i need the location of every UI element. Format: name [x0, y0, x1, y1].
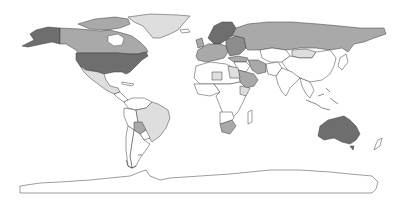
region-new-zealand — [374, 138, 382, 150]
region-iran — [248, 60, 266, 74]
region-canada — [60, 28, 148, 54]
region-libya-tint — [212, 72, 222, 80]
region-antarctica — [20, 170, 378, 193]
region-australia — [318, 116, 360, 144]
region-mongolia — [292, 49, 316, 58]
region-japan — [338, 54, 348, 70]
region-cuba — [122, 82, 134, 86]
region-tasmania — [350, 146, 354, 150]
region-russia — [232, 22, 386, 52]
region-uk — [196, 38, 204, 48]
region-alaska — [22, 27, 60, 47]
region-madagascar — [248, 110, 252, 124]
region-horn-of-africa — [240, 86, 250, 96]
region-turkey — [228, 56, 248, 62]
region-eastern-europe — [226, 36, 246, 56]
world-map — [0, 0, 405, 207]
region-iceland — [180, 29, 190, 33]
world-map-svg — [0, 0, 405, 207]
region-central-america — [114, 92, 128, 102]
region-greenland — [128, 14, 190, 38]
region-arctic-islands — [78, 17, 130, 30]
